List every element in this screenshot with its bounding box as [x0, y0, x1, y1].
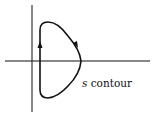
arrow-up-icon — [38, 41, 43, 48]
contour-diagram — [0, 0, 152, 116]
s-contour-path — [40, 22, 81, 98]
contour-label: s contour — [82, 77, 132, 89]
